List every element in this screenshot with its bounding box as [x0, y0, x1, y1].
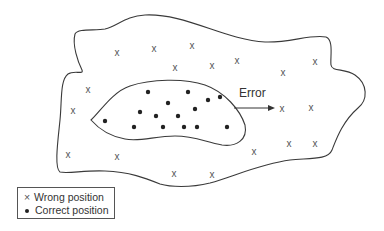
wrong-position-marker: x	[190, 40, 195, 51]
correct-position-marker	[195, 125, 199, 129]
correct-position-marker	[186, 90, 190, 94]
wrong-position-marker: x	[235, 55, 240, 66]
cross-icon: ×	[24, 191, 34, 204]
wrong-position-markers: xxxxxxxxxxxxxxxxxxx	[66, 40, 318, 180]
wrong-position-marker: x	[66, 149, 71, 160]
wrong-position-marker: x	[172, 168, 177, 179]
correct-position-marker	[225, 125, 229, 129]
wrong-position-marker: x	[281, 67, 286, 78]
wrong-position-marker: x	[71, 105, 76, 116]
correct-position-marker	[166, 101, 170, 105]
correct-position-marker	[218, 95, 222, 99]
correct-position-markers	[103, 90, 229, 129]
correct-position-marker	[103, 119, 107, 123]
correct-position-marker	[193, 107, 197, 111]
legend: ×Wrong position Correct position	[17, 187, 115, 219]
legend-item-wrong: ×Wrong position	[24, 191, 104, 204]
wrong-position-marker: x	[115, 151, 120, 162]
dot-icon	[25, 209, 29, 213]
wrong-position-marker: x	[115, 47, 120, 58]
correct-position-marker	[146, 90, 150, 94]
correct-position-marker	[154, 114, 158, 118]
correct-position-marker	[176, 114, 180, 118]
wrong-position-marker: x	[152, 43, 157, 54]
legend-label-wrong: Wrong position	[34, 191, 104, 203]
wrong-position-marker: x	[210, 169, 215, 180]
wrong-position-marker: x	[313, 138, 318, 149]
error-arrow-head	[268, 105, 275, 111]
correct-position-marker	[132, 125, 136, 129]
legend-item-correct: Correct position	[24, 204, 109, 217]
correct-position-marker	[182, 125, 186, 129]
wrong-position-marker: x	[173, 62, 178, 73]
outer-region-boundary	[57, 15, 365, 187]
error-label: Error	[239, 86, 266, 100]
wrong-position-marker: x	[313, 56, 318, 67]
inner-region-boundary	[91, 80, 245, 145]
wrong-position-marker: x	[287, 138, 292, 149]
correct-position-marker	[161, 125, 165, 129]
wrong-position-marker: x	[280, 103, 285, 114]
wrong-position-marker: x	[86, 84, 91, 95]
correct-position-marker	[138, 110, 142, 114]
legend-label-correct: Correct position	[35, 204, 109, 216]
correct-position-marker	[206, 98, 210, 102]
wrong-position-marker: x	[252, 146, 257, 157]
wrong-position-marker: x	[309, 102, 314, 113]
wrong-position-marker: x	[210, 60, 215, 71]
